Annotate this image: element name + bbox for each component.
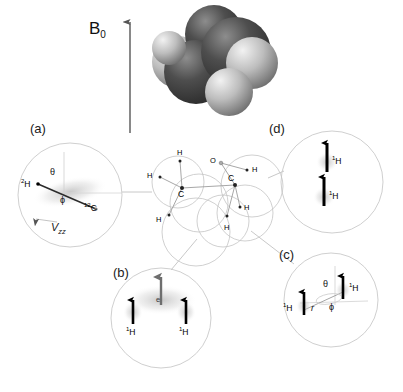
figure-root: B0 <box>0 0 403 392</box>
panel-d-proton-upper-label: 1H <box>332 155 341 165</box>
panel-d-proton-lower-label: 1H <box>329 190 338 200</box>
panel-d-content <box>0 0 403 392</box>
panel-d-label: (d) <box>269 122 285 135</box>
